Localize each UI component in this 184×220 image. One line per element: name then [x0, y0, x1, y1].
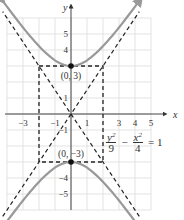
eq-minus: − [121, 136, 127, 148]
y-tick-label: 5 [64, 29, 69, 39]
y-tick-label: −4 [58, 173, 68, 183]
x-tick-label: −3 [18, 118, 28, 128]
y-tick-label: −1 [58, 125, 68, 135]
y-tick-label: 1 [64, 93, 69, 103]
fraction-y: y2 9 [106, 130, 116, 153]
eq-den1: 9 [108, 143, 114, 153]
axes [5, 6, 165, 210]
vertex-point [68, 63, 74, 69]
eq-den2: 4 [135, 143, 141, 153]
hyperbola-chart: −3−11345541−1−4−5 (0, 3)(0, −3) x y [0, 0, 184, 220]
vertex-point [68, 159, 74, 165]
x-tick-label: 1 [85, 118, 90, 128]
y-axis-label: y [62, 2, 68, 13]
y-tick-label: 4 [64, 45, 69, 55]
equation-label: y2 9 − x2 4 = 1 [104, 130, 165, 153]
eq-exp1: 2 [112, 131, 116, 139]
x-axis-label: x [172, 109, 178, 120]
eq-exp2: 2 [139, 131, 143, 139]
vertex-label: (0, −3) [58, 149, 84, 160]
y-tick-label: −5 [58, 189, 68, 199]
x-tick-label: 3 [117, 118, 122, 128]
eq-equals: = 1 [148, 136, 162, 148]
vertex-label: (0, 3) [61, 71, 82, 82]
fraction-x: x2 4 [133, 130, 143, 153]
x-tick-label: 4 [133, 118, 138, 128]
x-tick-label: 5 [149, 118, 154, 128]
